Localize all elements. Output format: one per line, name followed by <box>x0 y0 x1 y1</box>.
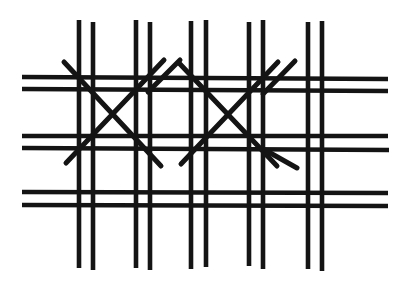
lattice-figure <box>0 0 407 290</box>
lattice-drawing-canvas <box>0 0 407 290</box>
figure-background <box>0 0 407 290</box>
